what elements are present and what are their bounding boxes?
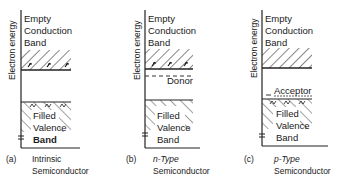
axis-label: Electron energy [132,20,142,80]
axis-label: Electron energy [7,20,17,80]
caption-letter: (b) [126,154,137,164]
caption-letter: (c) [244,154,254,164]
vb-label-2: Valence [33,122,67,133]
cb-label-1: Empty [265,13,292,24]
vb-label-2: Valence [157,122,191,133]
cb-label-3: Band [24,37,46,48]
vb-label-1: Filled [276,108,299,119]
axis-label: Electron energy [249,18,259,78]
cb-label-3: Band [265,37,287,48]
caption-line-2: Semiconductor [274,166,331,176]
conduction-band [262,48,312,68]
panel-n-type: Electron energy Empty Conduction Band Do… [126,10,210,176]
cb-label-1: Empty [148,13,175,24]
band-diagram-figure: Electron energy Empty Conduction Band Fi… [0,0,341,181]
vb-label-3: Band [157,134,179,145]
cb-label-2: Conduction [24,25,72,36]
cb-label-1: Empty [24,13,51,24]
cb-label-2: Conduction [265,25,313,36]
cb-label-2: Conduction [148,25,196,36]
caption-line-1: Intrinsic [32,154,62,164]
acceptor-label: Acceptor [274,85,312,96]
caption-line-2: Semiconductor [153,166,210,176]
panel-intrinsic: Electron energy Empty Conduction Band Fi… [6,10,89,176]
cb-label-3: Band [148,37,170,48]
vb-label-1: Filled [157,110,180,121]
caption-line-1: p-Type [273,154,300,164]
caption-line-1: n-Type [153,154,179,164]
vb-label-2: Valence [276,120,310,131]
panel-p-type: Electron energy Empty Conduction Band Ac… [244,10,331,176]
caption-letter: (a) [6,154,17,164]
vb-label-3: Band [276,132,298,143]
vb-label-1: Filled [33,110,56,121]
donor-label: Donor [167,75,193,86]
vb-label-3: Band [33,134,57,145]
caption-line-2: Semiconductor [32,166,89,176]
